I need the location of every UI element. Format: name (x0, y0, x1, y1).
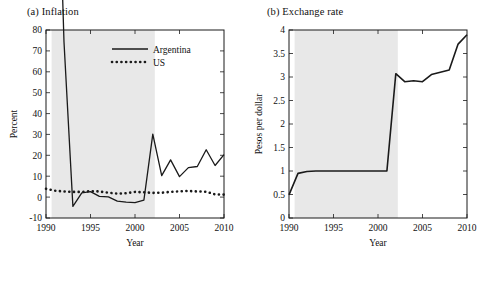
y-tick-label: 70 (33, 46, 43, 56)
panel-exchange-rate: (b) Exchange rate (250, 0, 500, 281)
x-tick-label: 1995 (81, 223, 100, 233)
y-tick-label: 30 (33, 130, 43, 140)
x-tick-label: 2005 (170, 223, 189, 233)
x-tick-label: 2000 (126, 223, 145, 233)
x-tick-label: 2010 (458, 223, 477, 233)
y-tick-label: 0 (280, 213, 285, 223)
legend-label-us: US (153, 58, 165, 68)
y-tick-label: -10 (29, 213, 42, 223)
y-tick-label: 0 (37, 193, 42, 203)
exchange-rate-plot: 0 0.5 1 1.5 2 2.5 3 3.5 4 1990 1995 2000… (250, 0, 500, 281)
y-tick-label: 1 (280, 166, 285, 176)
inflation-plot: -10 0 10 20 30 40 50 60 70 80 1990 1995 … (0, 0, 250, 281)
y-tick-label: 1.5 (273, 143, 285, 153)
y-tick-label: 20 (33, 151, 43, 161)
y-tick-label: 50 (33, 88, 43, 98)
x-tick-label: 1990 (37, 223, 56, 233)
x-tick-label: 1990 (280, 223, 299, 233)
shaded-region-convertibility (52, 30, 155, 218)
y-tick-label: 80 (33, 25, 43, 35)
x-tick-label: 2005 (413, 223, 432, 233)
x-axis-title: Year (369, 238, 387, 248)
x-tick-label: 2010 (215, 223, 234, 233)
x-tick-label: 2000 (369, 223, 388, 233)
y-tick-label: 0.5 (273, 190, 285, 200)
y-tick-label: 40 (33, 109, 43, 119)
y-axis-title: Percent (9, 109, 19, 138)
y-tick-label: 2 (280, 119, 285, 129)
y-tick-label: 4 (280, 25, 285, 35)
legend-label-argentina: Argentina (153, 45, 192, 55)
panel-inflation: (a) Inflation (0, 0, 250, 281)
y-tick-label: 10 (33, 172, 43, 182)
x-axis-title: Year (126, 238, 144, 248)
y-tick-label: 2.5 (273, 96, 285, 106)
y-tick-label: 3.5 (273, 49, 285, 59)
y-tick-label: 3 (280, 72, 285, 82)
figure-container: (a) Inflation (0, 0, 500, 281)
y-axis-title: Pesos per dollar (254, 93, 264, 155)
y-tick-label: 60 (33, 67, 43, 77)
x-tick-label: 1995 (324, 223, 343, 233)
shaded-region-convertibility (295, 30, 398, 218)
